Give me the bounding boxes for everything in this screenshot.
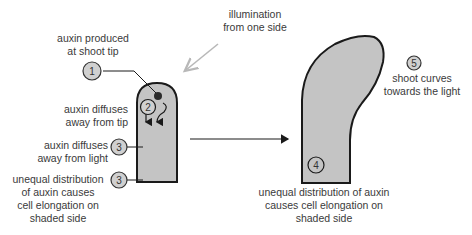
illumination-line-2: from one side <box>212 21 298 34</box>
step3a-line-1: auxin diffuses <box>20 139 108 152</box>
step3a-label: auxin diffuses away from light <box>20 139 108 165</box>
step3b-label: unequal distribution of auxin causes cel… <box>6 173 110 225</box>
svg-text:3: 3 <box>116 175 122 186</box>
step1-line-2: at shoot tip <box>48 45 138 58</box>
step3b-line-4: shaded side <box>6 212 110 225</box>
step4-line-3: shaded side <box>240 212 408 225</box>
step2-line-1: auxin diffuses <box>48 103 128 116</box>
step4-line-2: causes cell elongation on <box>240 199 408 212</box>
illumination-label: illumination from one side <box>212 8 298 34</box>
step5-line-1: shoot curves <box>376 72 468 85</box>
auxin-dot <box>154 92 162 100</box>
svg-text:1: 1 <box>89 66 95 77</box>
step5-badge: 5 <box>407 56 421 70</box>
light-arrow <box>186 44 218 70</box>
svg-text:4: 4 <box>313 160 319 171</box>
step5-line-2: towards the light <box>376 85 468 98</box>
svg-text:5: 5 <box>411 58 417 69</box>
step3a-badge: 3 <box>111 139 127 155</box>
step1-badge: 1 <box>83 62 101 80</box>
step3a-line-2: away from light <box>20 152 108 165</box>
step2-line-2: away from tip <box>48 116 128 129</box>
illumination-line-1: illumination <box>212 8 298 21</box>
step1-label: auxin produced at shoot tip <box>48 32 138 58</box>
step4-badge: 4 <box>308 157 324 173</box>
step4-label: unequal distribution of auxin causes cel… <box>240 186 408 225</box>
step2-badge: 2 <box>141 100 156 115</box>
step5-label: shoot curves towards the light <box>376 72 468 98</box>
svg-text:3: 3 <box>116 142 122 153</box>
step3b-badge: 3 <box>111 172 127 188</box>
step3b-line-2: of auxin causes <box>6 186 110 199</box>
step4-line-1: unequal distribution of auxin <box>240 186 408 199</box>
step1-line-1: auxin produced <box>48 32 138 45</box>
step3b-line-3: cell elongation on <box>6 199 110 212</box>
step2-label: auxin diffuses away from tip <box>48 103 128 129</box>
step3b-line-1: unequal distribution <box>6 173 110 186</box>
svg-text:2: 2 <box>145 102 151 113</box>
